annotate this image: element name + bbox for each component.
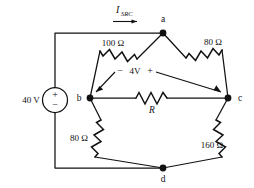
wire-a-to-resistor-ab bbox=[137, 33, 163, 59]
bridge-voltage-arrow-right-head bbox=[214, 85, 221, 92]
node-d-label: d bbox=[161, 174, 166, 184]
source-voltage-label: 40 V bbox=[22, 95, 40, 105]
source-minus-sign: − bbox=[52, 99, 58, 110]
resistor-bd-zigzag bbox=[92, 120, 104, 157]
node-a-dot bbox=[160, 30, 167, 37]
node-b-dot bbox=[87, 95, 94, 102]
resistor-bc-label: R bbox=[148, 105, 155, 115]
resistor-ab-label: 100 Ω bbox=[102, 38, 125, 48]
node-a-label: a bbox=[161, 14, 166, 24]
wire-resistor-cd-to-d bbox=[163, 157, 222, 168]
resistor-bd-label: 80 Ω bbox=[70, 133, 88, 143]
node-c-label: c bbox=[238, 93, 242, 103]
resistor-cd-label: 160 Ω bbox=[201, 140, 224, 150]
source-current-symbol: I bbox=[115, 4, 120, 15]
bridge-voltage-plus-sign: + bbox=[147, 65, 153, 76]
resistor-ac-zigzag bbox=[186, 49, 222, 61]
bridge-voltage-minus-sign: − bbox=[117, 65, 123, 76]
source-current-subscript: SRC bbox=[121, 10, 133, 17]
node-b-label: b bbox=[77, 93, 82, 103]
resistor-cd-zigzag bbox=[214, 120, 226, 157]
bridge-voltage-arrow-left-head bbox=[96, 86, 103, 92]
source-plus-sign: + bbox=[52, 89, 58, 100]
wire-c-to-resistor-cd bbox=[216, 98, 228, 120]
bridge-voltage-arrow-right-shaft bbox=[156, 72, 221, 92]
bridge-voltage-value: 4V bbox=[130, 66, 142, 76]
circuit-canvas: + − 40 V a b c d 100 Ω 80 Ω 80 Ω 160 Ω R… bbox=[0, 0, 254, 188]
node-c-dot bbox=[225, 95, 232, 102]
source-current-arrow-head bbox=[132, 19, 138, 23]
wire-b-to-resistor-bd bbox=[90, 98, 101, 120]
node-d-dot bbox=[160, 165, 167, 172]
circuit-diagram: + − 40 V a b c d 100 Ω 80 Ω 80 Ω 160 Ω R… bbox=[0, 0, 254, 188]
resistor-ab-zigzag bbox=[100, 50, 137, 62]
wire-resistor-ac-to-c bbox=[222, 50, 228, 98]
resistor-ac-label: 80 Ω bbox=[204, 37, 222, 47]
wire-resistor-bd-to-d bbox=[95, 157, 163, 168]
wire-a-to-resistor-ac bbox=[163, 33, 186, 58]
resistor-bc-zigzag bbox=[136, 93, 167, 105]
